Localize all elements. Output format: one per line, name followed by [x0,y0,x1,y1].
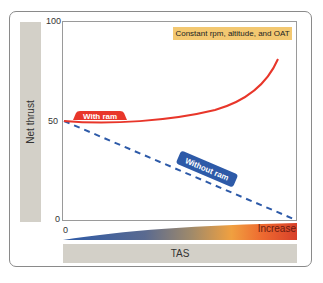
x-axis-label: TAS [63,244,297,263]
plot-area: With ram Without ram [0,0,323,283]
with-ram-label: With ram [83,112,117,121]
x-tick-increase: Increase [258,223,296,234]
condition-label: Constant rpm, altitude, and OAT [173,27,292,40]
plot-box [63,22,297,221]
